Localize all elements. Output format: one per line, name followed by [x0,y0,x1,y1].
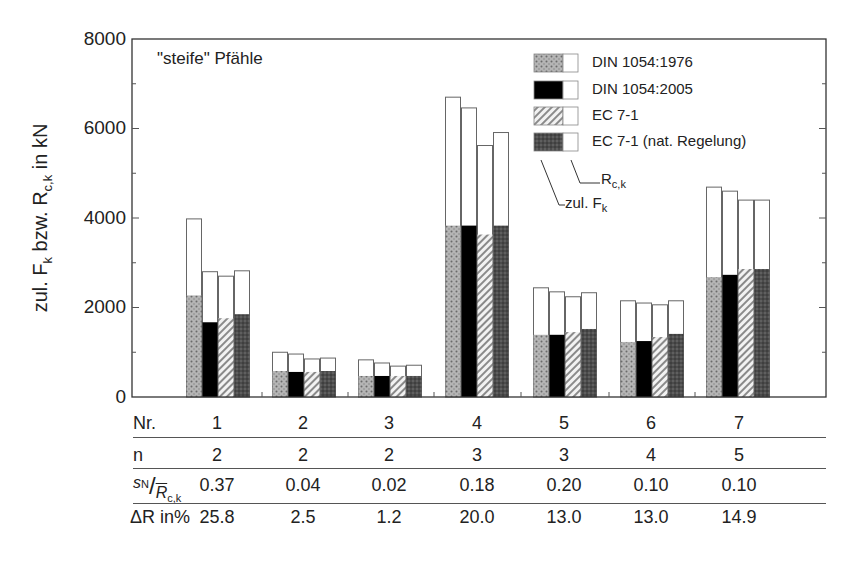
bar-fk [494,226,509,397]
bar-fk [359,376,374,397]
table-cell: 7 [704,413,774,434]
legend-item-ec7-nat: EC 7-1 (nat. Regelung) [592,132,746,149]
y-label-part: in kN [29,124,51,175]
y-tick-4000: 4000 [66,207,126,229]
table-divider [133,437,826,438]
table-divider [133,468,826,469]
table-cell: 0.10 [704,475,774,496]
y-tick-0: 0 [66,386,126,408]
legend-swatch-fill [534,81,563,99]
legend-swatch-rck [563,133,578,151]
bar-fk [187,295,202,397]
bar-fk [235,314,250,397]
y-tick-2000: 2000 [66,296,126,318]
y-label-sub: c,k [40,175,55,192]
bar-fk [219,318,234,397]
y-label-part: bzw. R [29,191,51,257]
bar-fk [653,337,668,397]
legend-swatches [534,54,600,205]
fk-sub: k [602,202,608,214]
legend-swatch-fill [534,54,563,72]
table-cell: 0.18 [442,475,512,496]
table-cell: 3 [529,445,599,466]
table-cell: 0.20 [529,475,599,496]
table-row-label-nr: Nr. [133,413,156,434]
rck-sub: c,k [612,178,626,190]
bar-fk [550,335,565,397]
bar-fk [203,322,218,397]
y-tick-6000: 6000 [66,117,126,139]
bar-fk [582,329,597,397]
y-label-part: zul. F [29,263,51,312]
table-cell: 5 [704,445,774,466]
bar-fk [446,226,461,397]
table-cell: 3 [354,413,424,434]
bar-fk [637,341,652,397]
legend-item-din2005: DIN 1054:2005 [592,80,693,97]
legend-swatch-fill [534,107,563,125]
table-cell: 2 [268,445,338,466]
bar-fk [478,235,493,397]
bar-fk [739,269,754,397]
bar-fk [669,334,684,397]
table-cell: 2 [354,445,424,466]
table-cell: 3 [442,445,512,466]
table-cell: 2 [268,413,338,434]
table-cell: 13.0 [616,507,686,528]
bar-fk [621,342,636,397]
bar-fk [723,275,738,397]
table-cell: 20.0 [442,507,512,528]
table-cell: 1.2 [354,507,424,528]
table-cell: 0.02 [354,475,424,496]
chart-subtitle: "steife" Pfähle [157,49,263,69]
table-cell: 2.5 [268,507,338,528]
table-row-label-sn: sN/Rc,k [133,472,181,500]
legend-item-din1976: DIN 1054:1976 [592,53,693,70]
y-label-sub: k [40,257,55,264]
legend-note-rck: Rc,k [601,170,626,190]
legend-item-ec7: EC 7-1 [592,106,639,123]
bar-fk [321,371,336,397]
table-cell: 0.37 [182,475,252,496]
table-cell: 0.04 [268,475,338,496]
bar-fk [391,376,406,397]
bar-fk [289,372,304,397]
bar-fk [273,371,288,397]
bar-fk [755,269,770,397]
fk-label: zul. F [565,194,602,211]
bar-fk [305,372,320,397]
table-cell: 0.10 [616,475,686,496]
table-cell: 6 [616,413,686,434]
bar-fk [707,277,722,397]
table-row-label-n: n [133,445,143,466]
legend-note-fk: zul. Fk [565,194,607,214]
table-cell: 4 [442,413,512,434]
y-axis-label: zul. Fk bzw. Rc,k in kN [29,124,55,313]
legend-swatch-fill [534,133,563,151]
bar-fk [566,332,581,397]
bar-fk [407,376,422,397]
table-cell: 13.0 [529,507,599,528]
table-cell: 14.9 [704,507,774,528]
table-cell: 1 [182,413,252,434]
legend-swatch-rck [563,54,578,72]
chart-container: 8000 6000 4000 2000 0 zul. Fk bzw. Rc,k … [0,0,859,569]
bar-fk [462,226,477,397]
bar-fk [375,376,390,397]
table-cell: 4 [616,445,686,466]
legend-swatch-rck [563,107,578,125]
table-cell: 25.8 [182,507,252,528]
table-cell: 5 [529,413,599,434]
legend-swatch-rck [563,81,578,99]
table-cell: 2 [182,445,252,466]
table-divider [133,503,826,504]
bar-fk [534,335,549,397]
rck-label: R [601,170,612,187]
y-tick-8000: 8000 [66,28,126,50]
